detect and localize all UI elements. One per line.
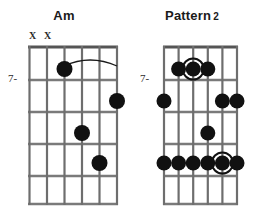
- chord-diagram-pattern-2: Pattern2: [128, 0, 256, 217]
- note-dot-s5-f5-root: [215, 156, 230, 171]
- fret-lines-am: [28, 47, 118, 204]
- slur-arc-am: [64, 60, 117, 66]
- note-dot-s6-f5: [230, 156, 245, 171]
- note-dot-s1-f5: [157, 156, 172, 171]
- note-dot-s4-f1: [200, 62, 215, 77]
- finger-dot-s5-f4: [92, 155, 108, 171]
- string-lines-am: [30, 46, 118, 205]
- fret-position-label-pattern-2: 7-: [140, 72, 149, 84]
- finger-dot-s4-f3: [74, 125, 90, 141]
- fretboard-am: [0, 0, 128, 217]
- chord-diagram-am: Am 7- X X: [0, 0, 128, 217]
- note-dot-s4-f4: [200, 126, 215, 141]
- note-dot-s6-f2: [230, 94, 245, 109]
- note-dot-s3-f1-root: [186, 62, 201, 77]
- fretboard-pattern-2: [128, 0, 256, 217]
- finger-dot-s6-f2: [109, 93, 125, 109]
- note-dot-s1-f2: [157, 94, 172, 109]
- note-dot-s2-f5: [171, 156, 186, 171]
- note-dot-s3-f5: [186, 156, 201, 171]
- chord-sheet: Am 7- X X: [0, 0, 256, 217]
- note-dot-s5-f2: [215, 94, 230, 109]
- finger-dot-s3-f1: [57, 61, 73, 77]
